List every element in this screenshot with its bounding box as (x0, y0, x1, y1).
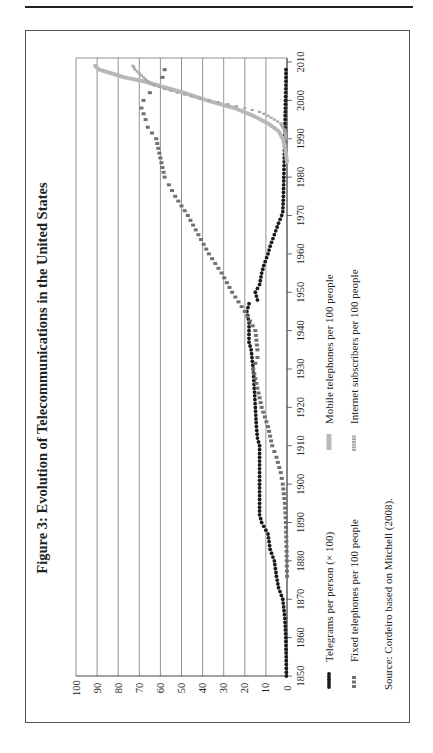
data-point (169, 90, 172, 92)
data-point (284, 95, 288, 99)
year-tick-label: 1900 (295, 474, 306, 495)
year-tick-label: 1880 (295, 550, 306, 571)
data-point (253, 398, 257, 402)
data-point (210, 257, 214, 260)
data-point (285, 570, 289, 573)
swatch-dot (352, 441, 356, 443)
value-tick-label: 90 (92, 683, 103, 694)
data-point (163, 68, 167, 71)
data-point (246, 306, 250, 310)
year-tick-label: 1850 (295, 666, 306, 687)
data-point (284, 526, 288, 529)
data-point (258, 494, 262, 498)
data-point (253, 405, 257, 409)
data-point (283, 511, 287, 514)
data-point (282, 497, 286, 500)
data-point (284, 640, 288, 644)
data-point (253, 390, 257, 394)
data-point (254, 339, 258, 342)
data-point (282, 605, 286, 609)
data-point (254, 334, 258, 337)
data-point (284, 68, 288, 72)
swatch-square (352, 681, 356, 684)
value-tick-label: 50 (176, 683, 187, 694)
data-point (258, 279, 262, 283)
data-point (148, 91, 152, 94)
data-point (284, 134, 287, 136)
data-point (258, 455, 262, 459)
data-point (258, 463, 262, 467)
swatch-square (352, 685, 356, 688)
data-point (258, 471, 262, 475)
data-point (266, 532, 270, 536)
data-point (278, 590, 282, 594)
data-point (281, 601, 285, 605)
data-point (194, 228, 198, 231)
data-point (173, 195, 177, 198)
data-point (284, 136, 287, 138)
data-point (256, 298, 260, 302)
data-point (255, 429, 259, 433)
data-point (267, 536, 271, 540)
data-point (273, 563, 277, 567)
data-point (281, 487, 285, 490)
data-point (282, 492, 286, 495)
data-point (276, 582, 280, 586)
grid (76, 58, 287, 676)
data-point (284, 540, 288, 543)
data-point (255, 387, 259, 390)
data-point (163, 88, 166, 90)
data-point (222, 276, 226, 279)
data-point (251, 109, 254, 111)
data-point (226, 103, 229, 105)
data-point (276, 120, 279, 122)
data-point (255, 432, 259, 436)
data-point (284, 531, 288, 534)
swatch-square (352, 676, 356, 679)
data-point (276, 461, 280, 464)
swatch-dot (352, 449, 356, 451)
data-point (213, 262, 217, 265)
data-point (282, 168, 286, 172)
data-point (260, 521, 264, 525)
data-point (283, 613, 287, 617)
data-point (225, 281, 229, 284)
value-tick-label: 60 (155, 683, 166, 694)
data-point (275, 225, 279, 229)
data-point (176, 92, 179, 94)
data-point (284, 516, 288, 519)
data-point (188, 219, 192, 222)
legend-label: Fixed telephones per 100 people (348, 519, 360, 662)
data-point (132, 67, 135, 69)
data-point (268, 544, 272, 548)
series-telegrams (245, 68, 288, 678)
axes (76, 58, 292, 676)
data-point (262, 524, 266, 528)
data-point (277, 586, 281, 590)
data-point (142, 76, 145, 78)
data-point (256, 436, 260, 440)
legend-swatch (327, 672, 331, 689)
data-point (272, 559, 276, 563)
data-point (216, 267, 220, 270)
value-tick-label: 100 (71, 680, 82, 696)
data-point (142, 99, 146, 102)
data-point (284, 79, 288, 83)
data-point (158, 86, 161, 88)
year-tick-label: 2010 (295, 52, 306, 73)
data-point (260, 406, 264, 409)
data-point (155, 142, 159, 145)
data-point (255, 294, 259, 298)
value-tick-label: 70 (134, 683, 145, 694)
year-tick-label: 1910 (295, 435, 306, 456)
data-point (220, 272, 224, 275)
data-point (183, 94, 186, 96)
data-point (285, 559, 289, 562)
data-point (281, 202, 285, 206)
data-point (146, 80, 149, 82)
data-point (284, 655, 288, 659)
legend-label: Internet subscribers per 100 people (348, 269, 360, 424)
data-point (280, 124, 283, 126)
data-point (263, 260, 267, 264)
data-point (254, 413, 258, 417)
